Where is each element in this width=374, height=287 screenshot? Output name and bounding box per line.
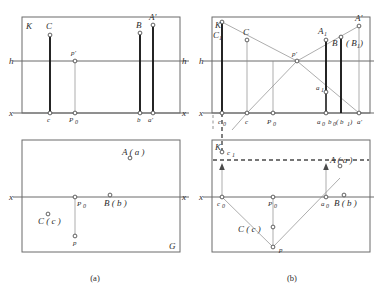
label-point-c-b: c	[245, 118, 249, 126]
point-B-b-node-b	[342, 193, 346, 197]
ray-C1-to-p-prime	[222, 22, 297, 61]
point-p-prime-node-b	[295, 59, 299, 63]
label-point-B1: ( B 1 )	[346, 38, 363, 49]
svg-text:0: 0	[223, 121, 226, 127]
label-point-A-a-b: A ( a )	[329, 155, 353, 165]
label-point-P0-a: P 0	[68, 116, 78, 125]
label-h-left-a: h	[9, 56, 14, 66]
svg-text:P: P	[68, 116, 74, 124]
svg-text:P: P	[267, 200, 273, 208]
panel-b-plan-view: K c 1 A ( a ) x c 0 P 0 a 0 B ( b ) C ( …	[198, 140, 374, 254]
label-point-P0-plan: P 0	[76, 200, 86, 209]
figure-canvas: K C p' B A' h h x x c P 0 b a'	[0, 0, 374, 287]
point-A-prime-node-b	[357, 24, 361, 28]
label-point-c0-plan: c 0	[217, 200, 225, 209]
panel-b: K C 1 C p' A 1 B ( B 1 ) A' a 1 h	[198, 13, 374, 283]
label-plane-K-a: K	[25, 21, 33, 31]
svg-text:1: 1	[321, 87, 324, 93]
label-x-right-a-plan: x	[181, 192, 186, 202]
label-point-a-prime-a: a'	[148, 116, 154, 124]
point-P0-plan-node-b	[271, 195, 275, 199]
svg-text:): )	[349, 118, 353, 126]
line-c0-to-p	[222, 197, 273, 247]
svg-text:( B: ( B	[346, 38, 357, 48]
svg-text:( b: ( b	[336, 118, 344, 126]
label-point-b-a: b	[137, 116, 141, 124]
svg-text:a: a	[316, 84, 320, 92]
caption-a: (a)	[90, 273, 100, 283]
label-point-p-prime-b: p'	[291, 50, 298, 58]
point-P0-plan-node	[73, 195, 77, 199]
svg-text:0: 0	[326, 203, 329, 209]
label-point-p: p	[72, 239, 77, 247]
label-point-a1: a 1	[316, 84, 324, 93]
label-point-A-prime-b: A'	[354, 13, 363, 23]
label-h-left-b: h	[199, 56, 204, 66]
point-B-node-b	[339, 35, 343, 39]
svg-text:a: a	[321, 200, 325, 208]
point-a-prime-node-b	[357, 111, 361, 115]
point-p-prime-node	[73, 59, 77, 63]
label-point-p-prime-a: p'	[70, 49, 77, 57]
label-x-left-a-top: x	[8, 108, 13, 118]
point-a-prime-node	[151, 111, 155, 115]
svg-text:P: P	[266, 118, 272, 126]
label-point-B-b: B ( b )	[104, 198, 127, 208]
svg-text:c: c	[227, 149, 231, 157]
label-point-c-a: c	[47, 116, 51, 124]
svg-text:P: P	[76, 200, 82, 208]
label-point-B-a: B	[136, 20, 142, 30]
svg-text:0: 0	[75, 119, 78, 125]
label-x-left-b-plan: x	[198, 192, 203, 202]
label-point-a0-plan: a 0	[321, 200, 329, 209]
point-B-node	[138, 31, 142, 35]
point-c-node	[48, 111, 52, 115]
label-x-left-b-top: x	[198, 108, 203, 118]
caption-b: (b)	[287, 273, 297, 283]
arrow-a0-up	[323, 163, 329, 197]
point-P0-node-b	[271, 111, 275, 115]
svg-text:1: 1	[232, 152, 235, 158]
label-h-right-a: h	[182, 56, 187, 66]
label-plane-K-b: K	[214, 20, 222, 30]
label-point-B-b-top: B	[332, 38, 338, 48]
point-A1-node	[324, 38, 328, 42]
point-c-node-b	[245, 111, 249, 115]
panel-a-plan-view: A ( a ) P 0 B ( b ) C ( c ) p x x G	[8, 140, 189, 252]
label-point-C-b: C	[243, 27, 250, 37]
label-point-C-c-b: C ( c )	[238, 224, 261, 234]
label-point-P0-b: P 0	[266, 118, 276, 127]
label-point-P0-plan-b: P 0	[267, 200, 277, 209]
ray-p-prime-to-c	[247, 61, 297, 113]
point-a0-node	[324, 111, 328, 115]
svg-text:0: 0	[322, 121, 325, 127]
svg-text:b: b	[328, 118, 332, 126]
panel-a-top-frame	[22, 17, 180, 113]
label-plane-G: G	[169, 241, 176, 251]
point-a0-plan-node	[324, 195, 328, 199]
point-C-node-b	[245, 38, 249, 42]
point-c0-node	[220, 111, 224, 115]
arrow-c0-up	[219, 163, 225, 197]
label-point-A-prime-a: A'	[148, 12, 157, 22]
label-point-a-prime-b: a'	[357, 118, 363, 126]
label-point-p-b: p	[278, 246, 283, 254]
label-point-a0: a 0	[317, 118, 325, 127]
label-point-A1: A 1	[317, 26, 327, 37]
point-C-node	[48, 33, 52, 37]
point-P0-node	[73, 111, 77, 115]
svg-text:c: c	[217, 200, 221, 208]
point-a1-node	[324, 90, 328, 94]
label-point-A-a: A ( a )	[121, 147, 145, 157]
svg-text:a: a	[317, 118, 321, 126]
line-p-to-A	[273, 178, 340, 247]
label-point-b0-b1: b 0 ( b 1 )	[328, 118, 353, 127]
panel-b-top-view: K C 1 C p' A 1 B ( B 1 ) A' a 1 h	[198, 13, 374, 152]
svg-text:1: 1	[324, 31, 327, 37]
label-point-C1: C 1	[213, 30, 222, 41]
svg-text:0: 0	[83, 203, 86, 209]
panel-a-top-view: K C p' B A' h h x x c P 0 b a'	[8, 12, 189, 125]
point-c0-plan-node	[220, 195, 224, 199]
svg-text:0: 0	[274, 203, 277, 209]
label-point-B-b-plan: B ( b )	[334, 198, 357, 208]
